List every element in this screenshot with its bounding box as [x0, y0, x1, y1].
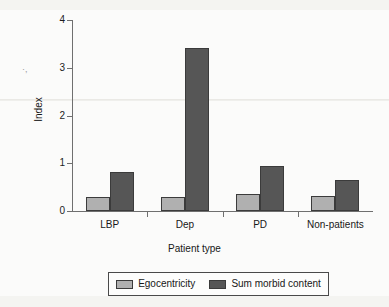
- bar: [110, 172, 134, 211]
- y-axis-title: Index: [33, 97, 44, 121]
- legend-swatch-icon: [116, 280, 133, 289]
- y-axis-tick-label: 1: [45, 158, 65, 168]
- chart-legend: EgocentricitySum morbid content: [108, 272, 329, 296]
- scan-artifact: [0, 0, 389, 10]
- bar: [185, 48, 209, 211]
- chart-figure: 01234 Index ·, LBPDepPDNon-patients Pati…: [0, 0, 389, 307]
- legend-label: Egocentricity: [138, 279, 195, 289]
- x-axis-tick: [298, 212, 299, 217]
- bar: [335, 180, 359, 211]
- legend-label: Sum morbid content: [231, 279, 321, 289]
- x-axis-tick: [223, 212, 224, 217]
- bar: [311, 196, 335, 211]
- y-axis-tick-label: 3: [45, 63, 65, 73]
- y-axis-tick-label: 2: [45, 111, 65, 121]
- bar: [236, 194, 260, 211]
- legend-entry: Sum morbid content: [209, 279, 321, 289]
- y-axis-tick-label: 0: [45, 206, 65, 216]
- scan-artifact-mark: ·,: [22, 64, 28, 74]
- bars-container: [72, 20, 373, 211]
- bar: [161, 197, 185, 211]
- y-axis-tick-label: 4: [45, 15, 65, 25]
- x-axis-tick: [147, 212, 148, 217]
- y-axis-tick: [67, 211, 73, 212]
- legend-entry: Egocentricity: [116, 279, 195, 289]
- scan-artifact: [0, 296, 389, 307]
- bar: [260, 166, 284, 211]
- x-axis-title: Patient type: [0, 243, 389, 254]
- x-axis-category-label: Non-patients: [285, 220, 385, 230]
- bar: [86, 197, 110, 211]
- legend-swatch-icon: [209, 280, 226, 289]
